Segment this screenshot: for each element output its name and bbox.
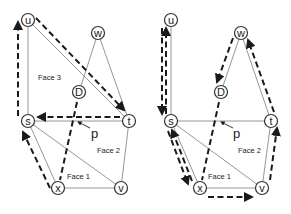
edge-s-x (28, 121, 58, 188)
edge-w-t (98, 33, 129, 121)
svg-text:x: x (55, 182, 61, 194)
dashed-path-D-x (60, 102, 77, 180)
svg-text:u: u (168, 14, 174, 26)
svg-text:v: v (259, 182, 265, 194)
vertex-v: v (256, 182, 269, 195)
edge-u-t (28, 20, 129, 121)
vertex-D: D (215, 86, 228, 99)
left-graph-edges (28, 20, 129, 188)
planar-graph-figure: p Face 3 Face 2 Face 1 u w D s t x v (0, 0, 291, 214)
vertex-w: w (235, 27, 248, 40)
svg-text:s: s (25, 115, 31, 127)
vertex-t: t (123, 115, 136, 128)
edge-t-v (121, 121, 129, 188)
edge-w-D (79, 33, 98, 92)
face-label-2: Face 2 (97, 146, 120, 155)
face-label-2: Face 2 (238, 146, 261, 155)
face-label-3: Face 3 (38, 73, 61, 82)
dashed-path-D-x (202, 102, 219, 180)
face-label-1: Face 1 (208, 172, 231, 181)
vertex-s: s (22, 115, 35, 128)
vertex-x: x (194, 182, 207, 195)
svg-text:u: u (25, 14, 31, 26)
svg-text:t: t (269, 115, 272, 127)
vertex-v: v (115, 182, 128, 195)
svg-text:D: D (75, 86, 83, 98)
vertex-t: t (265, 115, 278, 128)
svg-text:t: t (127, 115, 130, 127)
right-graph-panel: p Face 2 Face 1 u w D s t x v (162, 14, 278, 198)
dashed-path-s-x (168, 131, 188, 184)
left-graph-panel: p Face 3 Face 2 Face 1 u w D s t x v (18, 14, 136, 195)
vertex-x: x (52, 182, 65, 195)
vertex-u: u (165, 14, 178, 27)
svg-text:D: D (217, 86, 225, 98)
svg-text:v: v (118, 182, 124, 194)
svg-text:w: w (236, 27, 245, 39)
vertex-w: w (92, 27, 105, 40)
svg-text:w: w (93, 27, 102, 39)
point-label-p: p (233, 126, 240, 141)
vertex-D: D (73, 86, 86, 99)
vertex-s: s (165, 115, 178, 128)
right-p-pointer: p (221, 122, 240, 141)
vertex-u: u (22, 14, 35, 27)
dashed-path-v-t (270, 128, 277, 180)
point-label-p: p (91, 126, 98, 141)
svg-text:x: x (197, 182, 203, 194)
left-p-pointer: p (78, 122, 98, 141)
right-graph-edges (171, 20, 271, 188)
edge-w-t (241, 33, 271, 121)
p-pointer-line (221, 122, 233, 128)
dashed-path-w-D (217, 38, 233, 82)
dashed-path-x-s (172, 130, 192, 181)
left-dashed-paths (18, 18, 124, 188)
dashed-path-t-w (248, 40, 274, 112)
face-label-1: Face 1 (67, 172, 90, 181)
svg-text:s: s (168, 115, 174, 127)
p-pointer-line (78, 122, 90, 128)
